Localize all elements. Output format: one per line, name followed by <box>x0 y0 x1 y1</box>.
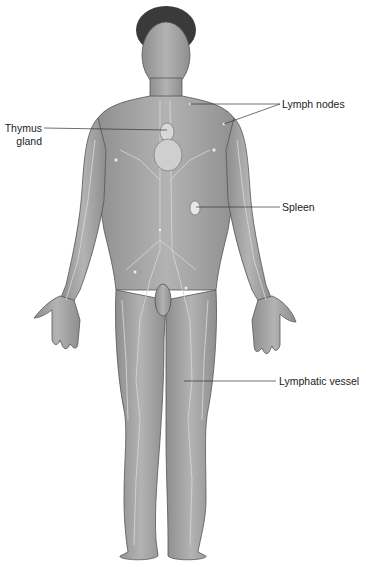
spleen <box>190 201 200 215</box>
human-body-figure <box>34 6 296 560</box>
label-thymus-gland: Thymus gland <box>2 122 42 148</box>
label-spleen: Spleen <box>282 201 315 214</box>
left-arm <box>226 118 272 304</box>
thymus <box>160 123 174 141</box>
lymphatic-system-diagram <box>0 0 366 567</box>
heart <box>154 139 182 171</box>
label-lymph-nodes: Lymph nodes <box>282 98 345 111</box>
left-hand <box>252 296 296 354</box>
genitals <box>155 284 171 316</box>
leader-lymph-nodes-2 <box>224 104 280 124</box>
label-thymus-line1: Thymus <box>2 122 42 135</box>
right-hand <box>34 296 80 349</box>
right-arm <box>60 118 106 304</box>
label-thymus-line2: gland <box>2 135 42 148</box>
right-leg <box>115 290 166 560</box>
label-lymphatic-vessel: Lymphatic vessel <box>279 375 359 388</box>
left-leg <box>166 290 217 560</box>
